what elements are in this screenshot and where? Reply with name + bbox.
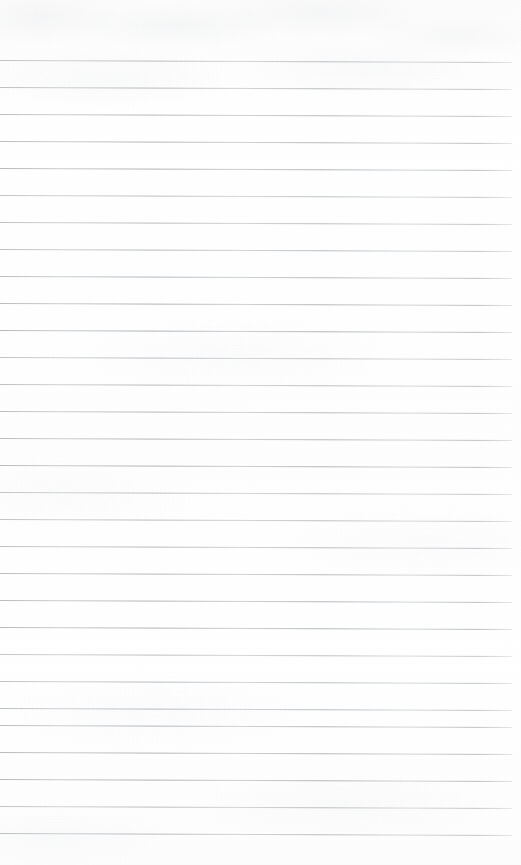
- scanned-page: [0, 0, 521, 865]
- paper-background: [0, 0, 521, 865]
